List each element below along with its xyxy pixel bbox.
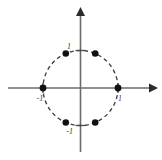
tick-label-y-positive-one: 1 bbox=[67, 42, 71, 51]
unit-circle-figure: 1 -1 1 -1 bbox=[0, 0, 162, 160]
root-point-60deg bbox=[92, 50, 99, 57]
x-axis-arrowhead-icon bbox=[149, 84, 158, 93]
root-point-120deg bbox=[63, 50, 70, 57]
root-point-180deg bbox=[40, 85, 47, 92]
unit-circle-diagram: 1 -1 1 -1 bbox=[0, 0, 162, 160]
tick-label-x-positive-one: 1 bbox=[118, 94, 122, 103]
y-axis-arrowhead-icon bbox=[76, 7, 85, 16]
tick-label-x-negative-one: -1 bbox=[37, 94, 44, 103]
root-point-300deg bbox=[92, 119, 99, 126]
root-point-0deg bbox=[115, 85, 122, 92]
root-point-240deg bbox=[63, 119, 70, 126]
tick-label-y-negative-one: -1 bbox=[66, 127, 73, 136]
